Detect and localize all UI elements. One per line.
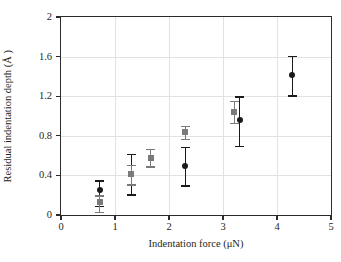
x-axis-tick-label: 1 [112,222,117,233]
x-axis-tick [168,215,169,220]
error-bar-cap-lower [127,184,136,185]
marker-circle [289,72,295,78]
error-bar-cap-lower [146,166,155,167]
y-axis-tick-label: 1.2 [39,91,52,102]
x-axis-tick [330,215,331,220]
x-axis-label-text: Indentation force (μN) [149,238,244,249]
figure-container: Residual indentation depth (Å ) 00.40.81… [0,0,341,262]
y-axis-tick [56,135,61,136]
y-axis-tick-label: 1.6 [39,51,52,62]
x-axis-tick-label: 5 [328,222,333,233]
marker-square [182,129,188,135]
y-axis-tick [56,96,61,97]
y-axis-tick-label: 0 [47,210,52,221]
gridline-horizontal [61,175,331,176]
error-bar-cap-lower [230,123,239,124]
plot-area: 00.40.81.21.62012345 [60,16,332,216]
error-bar-cap-lower [235,146,244,147]
marker-circle [97,187,103,193]
marker-circle [182,163,188,169]
x-axis-label: Indentation force (μN) [60,239,332,250]
gridline-vertical [169,17,170,215]
error-bar-cap-upper [146,149,155,150]
y-axis-tick [56,175,61,176]
error-bar-cap-upper [181,147,190,148]
y-axis-tick [56,16,61,17]
error-bar-cap-upper [95,180,104,181]
x-axis-tick [60,215,61,220]
error-bar-cap-lower [288,95,297,96]
y-axis-label-text: Residual indentation depth (Å ) [3,50,14,182]
x-axis-tick-label: 2 [166,222,171,233]
error-bar-cap-upper [235,96,244,97]
x-axis-tick-label: 4 [274,222,279,233]
gridline-horizontal [61,136,331,137]
marker-square [231,109,237,115]
x-axis-tick-label: 0 [58,222,63,233]
marker-square [97,199,103,205]
error-bar-cap-lower [181,185,190,186]
marker-square [148,155,154,161]
x-axis-tick [222,215,223,220]
y-axis-tick-label: 2 [47,12,52,23]
error-bar-cap-upper [230,101,239,102]
x-axis-tick [276,215,277,220]
y-axis-tick [56,56,61,57]
error-bar-cap-upper [288,56,297,57]
gridline-vertical [115,17,116,215]
x-axis-tick-label: 3 [220,222,225,233]
error-bar-cap-upper [127,165,136,166]
error-bar-cap-lower [95,212,104,213]
y-axis-tick-label: 0.8 [39,131,52,142]
marker-square [128,171,134,177]
gridline-vertical [277,17,278,215]
error-bar-cap-upper [181,126,190,127]
x-axis-tick [114,215,115,220]
gridline-vertical [223,17,224,215]
y-axis-tick-label: 0.4 [39,170,52,181]
error-bar-cap-upper [127,154,136,155]
error-bar-cap-lower [127,194,136,195]
error-bar-cap-upper [95,195,104,196]
error-bar-cap-lower [181,139,190,140]
y-axis-label: Residual indentation depth (Å ) [0,16,16,216]
